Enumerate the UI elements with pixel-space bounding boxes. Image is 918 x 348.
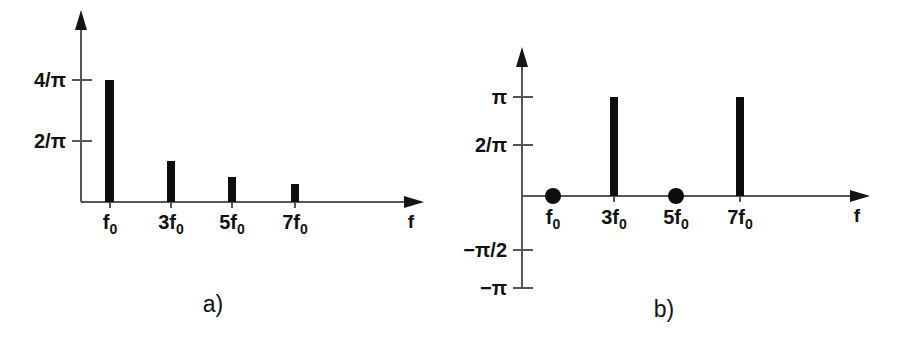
panel-b-xtick-label-3-base: 7f xyxy=(727,206,745,228)
panel-b-xtick-label-1: 3f0 xyxy=(601,206,627,232)
panel-a-bar-5f0 xyxy=(228,177,236,202)
panel-a-ytick-label-0: 4/π xyxy=(34,69,66,91)
panel-a-xaxis-name: f xyxy=(408,211,415,232)
panel-a-xtick-label-3-sub: 0 xyxy=(300,221,308,237)
panel-a-xtick-label-0-sub: 0 xyxy=(109,221,117,237)
panel-a-xtick-label-1-base: 3f xyxy=(158,211,176,233)
panel-b-ytick-label-0: π xyxy=(492,86,507,108)
panel-a-xtick-label-3-base: 7f xyxy=(282,211,300,233)
figure-container: 4/π 2/π f0 3f0 5f0 7f0 f a) π xyxy=(0,0,918,348)
panel-a-bar-3f0 xyxy=(167,161,175,202)
panel-b-xtick-label-3-sub: 0 xyxy=(745,216,753,232)
panel-b-dot-f0 xyxy=(545,188,561,204)
panel-b-bar-3f0 xyxy=(610,97,618,196)
panel-b-xtick-label-0-sub: 0 xyxy=(552,216,560,232)
panel-a-ytick-label-1: 2/π xyxy=(34,130,66,152)
panel-b-y-axis-arrowhead xyxy=(516,47,528,67)
panel-b-xtick-label-1-sub: 0 xyxy=(619,216,627,232)
panel-a-xtick-label-1: 3f0 xyxy=(158,211,184,237)
panel-b-caption: b) xyxy=(654,296,674,322)
panel-b-bar-7f0 xyxy=(736,97,744,196)
panel-a-xtick-label-1-sub: 0 xyxy=(176,221,184,237)
panel-b-dot-5f0 xyxy=(668,188,684,204)
panel-a-xtick-label-2-sub: 0 xyxy=(237,221,245,237)
panel-a-xtick-label-0: f0 xyxy=(103,211,118,237)
panel-b-xtick-label-2-sub: 0 xyxy=(681,216,689,232)
panel-a-xtick-label-2-base: 5f xyxy=(219,211,237,233)
panel-b-xtick-label-3: 7f0 xyxy=(727,206,753,232)
panel-b-xtick-label-2-base: 5f xyxy=(663,206,681,228)
panel-a-bar-7f0 xyxy=(291,184,299,202)
panel-a-xtick-label-2: 5f0 xyxy=(219,211,245,237)
panel-a: 4/π 2/π f0 3f0 5f0 7f0 f a) xyxy=(34,10,424,317)
panel-b-x-axis-arrowhead xyxy=(850,190,870,202)
panel-a-x-axis-arrowhead xyxy=(404,196,424,208)
panel-b-xtick-label-1-base: 3f xyxy=(601,206,619,228)
panel-b-ytick-label-3: −π xyxy=(480,277,507,299)
panel-a-bar-f0 xyxy=(105,80,114,202)
panel-b: π 2/π −π/2 −π f0 3f0 5f0 7f0 f b) xyxy=(463,47,870,322)
panel-b-ytick-label-1: 2/π xyxy=(475,134,507,156)
panel-b-xtick-label-0: f0 xyxy=(546,206,561,232)
panel-b-ytick-label-2: −π/2 xyxy=(463,239,507,261)
panel-a-xtick-label-3: 7f0 xyxy=(282,211,308,237)
panel-b-xtick-label-2: 5f0 xyxy=(663,206,689,232)
panel-b-xaxis-name: f xyxy=(854,205,861,226)
panel-a-y-axis-arrowhead xyxy=(75,10,87,30)
panel-a-caption: a) xyxy=(203,291,223,317)
